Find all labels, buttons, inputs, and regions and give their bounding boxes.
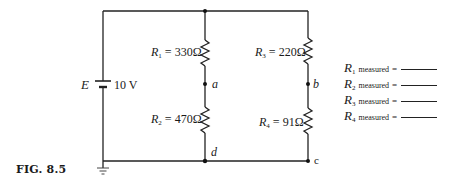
resistor-r4-label: R4 = 91Ω (259, 116, 304, 130)
node-d-dot (203, 159, 207, 163)
source-voltage: 10 V (114, 79, 137, 91)
battery-symbol (95, 81, 111, 87)
source-label: E (81, 78, 89, 91)
resistor-r1-symbol (201, 40, 209, 66)
figure-caption: FIG. 8.5 (16, 163, 66, 176)
resistor-r2-symbol (201, 107, 209, 133)
measurement-r4: R4 measured= (344, 109, 437, 124)
node-d-label: d (211, 146, 217, 158)
resistor-r3-label: R3 = 220Ω (255, 46, 306, 60)
node-a-label: a (212, 78, 218, 90)
measurement-r2: R2 measured= (344, 77, 437, 92)
measurement-r3-blank[interactable] (401, 101, 437, 102)
measurement-r3: R3 measured= (344, 93, 437, 108)
node-b-label: b (313, 78, 319, 90)
node-c-label: c (314, 155, 319, 166)
resistor-r1-label: R1 = 330Ω (151, 46, 202, 60)
measurement-r1: R1 measured= (344, 61, 437, 76)
node-c-dot (306, 159, 310, 163)
node-a-dot (203, 82, 207, 86)
junction-top (203, 9, 207, 13)
node-b-dot (306, 82, 310, 86)
ground-icon (97, 168, 109, 174)
measurement-r1-blank[interactable] (401, 69, 437, 70)
measurement-r4-blank[interactable] (401, 117, 437, 118)
resistor-r2-label: R2 = 470Ω (151, 113, 202, 127)
resistor-r4-symbol (304, 108, 312, 134)
measurement-r2-blank[interactable] (401, 85, 437, 86)
